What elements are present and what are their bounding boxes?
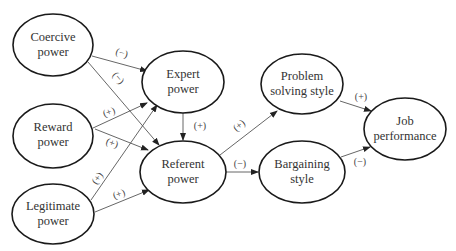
svg-text:power: power — [37, 135, 69, 149]
svg-text:power: power — [167, 172, 199, 186]
svg-text:solving style: solving style — [270, 84, 334, 98]
svg-text:(+): (+) — [89, 170, 106, 187]
svg-text:Referent: Referent — [161, 157, 205, 171]
edge-reward-expert: (+) — [93, 103, 147, 128]
node-reward-power: Reward power — [13, 104, 93, 168]
edge-problem-job: (+) — [340, 91, 371, 111]
node-legitimate-power: Legitimate power — [12, 184, 94, 244]
svg-text:(+): (+) — [231, 117, 248, 134]
path-diagram: (−) (−) (+) (+) (+) (+) (+) (+) (−) (+) … — [0, 0, 456, 251]
svg-text:Legitimate: Legitimate — [26, 199, 81, 213]
svg-text:(+): (+) — [104, 135, 120, 150]
edge-expert-referent: (+) — [183, 113, 206, 140]
svg-text:Problem: Problem — [281, 69, 324, 83]
svg-text:power: power — [167, 82, 199, 96]
svg-text:(+): (+) — [194, 120, 206, 132]
node-job-performance: Job performance — [364, 98, 446, 160]
svg-text:style: style — [290, 172, 314, 186]
svg-text:performance: performance — [373, 129, 437, 143]
edge-reward-referent: (+) — [95, 129, 148, 151]
svg-text:Bargaining: Bargaining — [274, 157, 330, 171]
edge-coercive-expert: (−) — [92, 46, 147, 71]
svg-text:(−): (−) — [354, 156, 366, 168]
svg-text:(+): (+) — [355, 91, 367, 103]
svg-text:Expert: Expert — [166, 67, 200, 81]
node-problem-solving-style: Problem solving style — [261, 54, 343, 114]
svg-text:(−): (−) — [234, 158, 246, 170]
svg-text:power: power — [37, 45, 69, 59]
svg-text:Coercive: Coercive — [30, 30, 76, 44]
edge-legitimate-referent: (+) — [95, 186, 149, 212]
svg-text:Reward: Reward — [34, 120, 74, 134]
edge-referent-problem: (+) — [220, 111, 277, 155]
svg-text:(−): (−) — [110, 69, 127, 86]
node-expert-power: Expert power — [142, 51, 224, 113]
node-bargaining-style: Bargaining style — [259, 141, 345, 203]
node-referent-power: Referent power — [140, 141, 226, 203]
node-coercive-power: Coercive power — [13, 14, 93, 76]
svg-text:(−): (−) — [114, 46, 129, 61]
svg-text:Job: Job — [396, 114, 413, 128]
edge-bargaining-job: (−) — [341, 147, 370, 168]
svg-text:power: power — [37, 214, 69, 228]
edge-referent-bargaining: (−) — [226, 158, 258, 172]
